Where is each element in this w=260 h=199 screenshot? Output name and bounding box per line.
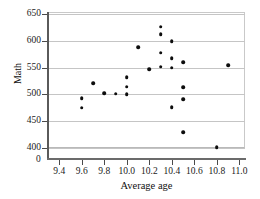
data-point — [215, 146, 219, 150]
data-point — [125, 75, 129, 79]
gridline — [48, 68, 245, 69]
y-axis-tick-label: 500 — [27, 89, 41, 99]
gridline — [48, 94, 245, 95]
y-axis-tick-label: 600 — [27, 36, 41, 46]
data-point — [181, 86, 185, 90]
x-axis-tick-label: 10.2 — [141, 167, 158, 177]
data-point — [114, 92, 118, 96]
x-axis-tick — [172, 160, 173, 165]
y-axis-spine — [47, 12, 49, 160]
gridline — [48, 14, 245, 15]
x-axis-tick — [59, 160, 60, 165]
x-axis-tick-label: 10.8 — [209, 167, 226, 177]
data-point — [170, 40, 174, 44]
data-point — [125, 85, 129, 89]
data-point — [170, 105, 174, 109]
plot-frame — [48, 12, 245, 148]
x-axis-tick-label: 10.4 — [164, 167, 181, 177]
data-point — [181, 97, 185, 101]
data-point — [181, 60, 185, 64]
x-axis-tick — [82, 160, 83, 165]
x-axis-tick-label: 9.4 — [53, 167, 65, 177]
data-point — [91, 81, 95, 85]
x-axis-tick — [217, 160, 218, 165]
y-axis-title: Math — [12, 44, 23, 104]
x-axis-tick — [127, 160, 128, 165]
data-point — [181, 130, 185, 134]
data-point — [159, 65, 163, 69]
data-point — [80, 106, 84, 110]
data-point — [136, 45, 140, 49]
x-axis-tick-label: 10.0 — [118, 167, 135, 177]
data-point — [125, 93, 129, 97]
data-point — [170, 56, 174, 60]
y-axis-tick-label: 550 — [27, 63, 41, 73]
y-axis-tick-label: 650 — [27, 9, 41, 19]
x-axis-tick-label: 11.0 — [231, 167, 247, 177]
gridline — [48, 121, 245, 122]
x-axis-tick — [239, 160, 240, 165]
scatter-plot-figure: 400450500550600650 9.49.69.810.010.210.4… — [0, 0, 260, 199]
data-point — [159, 25, 163, 29]
y-axis-tick-label: 450 — [27, 116, 41, 126]
y-axis-tick-label: 400 — [27, 143, 41, 153]
data-point — [148, 67, 152, 71]
x-axis-tick-label: 10.6 — [186, 167, 203, 177]
data-point — [226, 64, 230, 68]
data-point — [159, 51, 163, 55]
x-axis-title: Average age — [48, 180, 245, 191]
data-point — [159, 33, 163, 37]
x-axis-tick-label: 9.8 — [98, 167, 110, 177]
y-axis-break-label: 0 — [36, 155, 41, 165]
data-point — [170, 66, 174, 70]
gridline — [48, 41, 245, 42]
x-axis-tick — [149, 160, 150, 165]
x-axis-tick-label: 9.6 — [76, 167, 88, 177]
x-axis-tick — [104, 160, 105, 165]
x-axis-tick — [194, 160, 195, 165]
data-point — [102, 92, 106, 96]
data-point — [80, 96, 84, 100]
